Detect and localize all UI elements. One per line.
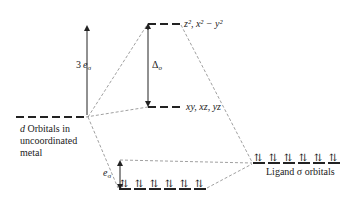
delta-o-label: Δo (152, 59, 162, 72)
metal-d-label-line3: metal (20, 147, 42, 158)
svg-text:⇅: ⇅ (180, 178, 188, 189)
metal-d-label-line1: d Orbitals in (20, 123, 70, 134)
eg-label: z², x² − y² (183, 18, 224, 29)
t2g-label: xy, xz, yz (185, 101, 221, 112)
svg-text:⇅: ⇅ (269, 152, 277, 163)
svg-text:⇅: ⇅ (195, 178, 203, 189)
svg-text:⇅: ⇅ (135, 178, 143, 189)
svg-text:⇅: ⇅ (120, 178, 128, 189)
metal-d-label-line2: uncoordinated (20, 135, 77, 146)
svg-text:⇅: ⇅ (314, 152, 322, 163)
svg-text:⇅: ⇅ (165, 178, 173, 189)
svg-text:⇅: ⇅ (284, 152, 292, 163)
bonding-electron-pairs: ⇅ ⇅ ⇅ ⇅ ⇅ ⇅ (120, 178, 203, 189)
three-e-sigma-label: 3eσ (76, 59, 91, 72)
ligand-label: Ligand σ orbitals (266, 166, 335, 177)
svg-text:⇅: ⇅ (150, 178, 158, 189)
mo-diagram: 3eσ Δo z², x² − y² xy, xz, yz d Orbitals… (0, 0, 360, 199)
correlation-lines (86, 25, 252, 188)
svg-text:⇅: ⇅ (254, 152, 262, 163)
svg-text:⇅: ⇅ (329, 152, 337, 163)
svg-text:⇅: ⇅ (299, 152, 307, 163)
ligand-electron-pairs: ⇅ ⇅ ⇅ ⇅ ⇅ ⇅ (254, 152, 337, 163)
